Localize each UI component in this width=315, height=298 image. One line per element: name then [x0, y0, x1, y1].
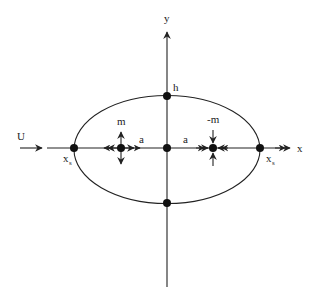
bottom-point — [163, 199, 171, 207]
source-label: m — [117, 115, 126, 127]
x-axis-label: x — [297, 142, 303, 154]
top-point — [163, 92, 171, 100]
stagnation-left-label: x s — [63, 152, 72, 167]
uniform-flow-label: U — [17, 130, 25, 142]
svg-text:s: s — [272, 159, 275, 167]
uniform-flow-arrow: U — [17, 130, 42, 148]
height-label: h — [173, 81, 179, 93]
svg-text:s: s — [69, 159, 72, 167]
origin-point — [163, 144, 171, 152]
y-axis-label: y — [164, 12, 170, 24]
x-axis: x — [47, 142, 303, 154]
stagnation-left-point — [70, 144, 78, 152]
source-point: m — [108, 115, 134, 164]
distance-a-left-label: a — [139, 133, 144, 145]
stagnation-right-point — [256, 144, 264, 152]
sink-point: -m — [202, 113, 226, 166]
sink-label: -m — [207, 113, 220, 125]
distance-a-right-label: a — [183, 133, 188, 145]
stagnation-right-label: x s — [266, 152, 275, 167]
rankine-oval-diagram: y x U m -m a a — [0, 0, 315, 298]
